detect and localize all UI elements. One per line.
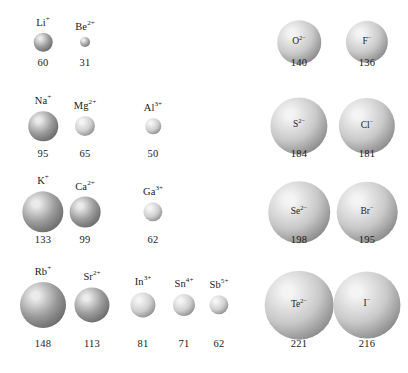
ion-label-br: Br− xyxy=(360,207,373,217)
ion-radius-value-sb: 62 xyxy=(214,339,225,350)
ion-label-sb: Sb5+ xyxy=(210,280,229,291)
ion-radius-value-f: 136 xyxy=(359,58,375,69)
ion-sphere-li xyxy=(34,33,53,52)
ion-symbol: O xyxy=(292,36,299,46)
ion-charge: 2+ xyxy=(87,179,95,187)
ion-sphere-cl: Cl− xyxy=(339,98,395,154)
ion-charge: 2− xyxy=(298,118,305,125)
ion-sphere-ca xyxy=(70,197,101,228)
ion-radius-value-sr: 113 xyxy=(84,339,100,350)
ion-radius-value-s: 184 xyxy=(291,149,307,160)
ion-charge: − xyxy=(370,118,374,125)
ion-charge: 2− xyxy=(299,34,306,41)
ion-label-ca: Ca2+ xyxy=(75,181,94,192)
ion-symbol: Rb xyxy=(35,266,47,277)
ion-label-al: Al3+ xyxy=(144,103,162,114)
ion-radius-value-na: 95 xyxy=(38,149,49,160)
ion-sphere-sn xyxy=(173,294,195,316)
ion-label-o: O2− xyxy=(292,37,306,47)
ion-symbol: Br xyxy=(360,206,370,216)
ion-radius-value-ca: 99 xyxy=(80,235,91,246)
ion-charge: 4+ xyxy=(186,276,194,284)
ion-charge: 3+ xyxy=(155,100,163,108)
ion-charge: − xyxy=(368,34,372,41)
ion-label-sn: Sn4+ xyxy=(175,278,194,289)
ion-label-li: Li+ xyxy=(36,17,50,28)
ion-charge: 5+ xyxy=(221,277,229,285)
ion-radius-value-mg: 65 xyxy=(80,149,91,160)
ion-symbol: Te xyxy=(291,299,300,309)
ion-charge: 2+ xyxy=(93,269,101,277)
ion-label-te: Te2− xyxy=(291,300,307,310)
ion-charge: 2− xyxy=(300,204,307,211)
ion-sphere-k xyxy=(22,191,63,232)
ion-radius-value-sn: 71 xyxy=(179,339,190,350)
ion-radius-value-i: 216 xyxy=(359,339,375,350)
ion-label-na: Na+ xyxy=(35,96,51,107)
ion-sphere-rb xyxy=(20,282,66,328)
ion-sphere-te: Te2− xyxy=(265,271,334,340)
ion-sphere-in xyxy=(130,292,155,317)
ion-charge: + xyxy=(46,15,50,23)
ion-radius-value-cl: 181 xyxy=(359,149,375,160)
ion-label-in: In3+ xyxy=(135,277,152,288)
ion-symbol: Se xyxy=(291,206,301,216)
ion-sphere-i: I− xyxy=(333,271,400,338)
ion-charge: 2− xyxy=(300,297,307,304)
ion-sphere-mg xyxy=(75,116,95,136)
ion-sphere-ga xyxy=(143,202,162,221)
ion-symbol: Mg xyxy=(74,99,89,110)
ion-charge: 3+ xyxy=(144,274,152,282)
ion-radius-value-br: 195 xyxy=(359,235,375,246)
ion-radius-value-al: 50 xyxy=(148,149,159,160)
ion-label-rb: Rb+ xyxy=(35,267,52,278)
ion-charge: 2+ xyxy=(89,98,97,106)
ion-label-f: F− xyxy=(363,37,372,47)
ion-radius-value-be: 31 xyxy=(80,58,91,69)
ion-label-i: I− xyxy=(364,300,371,310)
ion-symbol: Sr xyxy=(83,271,93,282)
ion-sphere-sr xyxy=(74,287,109,322)
ion-sphere-al xyxy=(145,118,161,134)
ion-sphere-na xyxy=(28,111,58,141)
ion-radius-value-ga: 62 xyxy=(148,235,159,246)
ion-label-cl: Cl− xyxy=(361,121,374,131)
ion-charge: + xyxy=(45,173,49,181)
ion-symbol: Sb xyxy=(210,279,221,290)
ion-radius-value-k: 133 xyxy=(35,235,51,246)
ion-sphere-sb xyxy=(209,295,228,314)
ion-symbol: Na xyxy=(35,95,47,106)
ion-charge: 3+ xyxy=(155,184,163,192)
ion-radius-value-rb: 148 xyxy=(35,339,51,350)
ion-symbol: Li xyxy=(36,16,46,27)
ion-label-k: K+ xyxy=(37,176,49,187)
ion-symbol: Al xyxy=(144,102,155,113)
ion-label-se: Se2− xyxy=(291,207,307,217)
ion-label-be: Be2+ xyxy=(75,22,94,33)
ion-charge: − xyxy=(370,204,374,211)
ionic-radii-figure: Li+60Be2+31Na+95Mg2+65Al3+50K+133Ca2+99G… xyxy=(0,0,408,373)
ion-label-sr: Sr2+ xyxy=(83,272,100,283)
ion-charge: − xyxy=(367,297,371,304)
ion-charge: + xyxy=(47,264,51,272)
ion-radius-value-li: 60 xyxy=(38,58,49,69)
ion-sphere-be xyxy=(80,37,90,47)
ion-radius-value-se: 198 xyxy=(291,235,307,246)
ion-symbol: Ca xyxy=(75,180,87,191)
ion-radius-value-te: 221 xyxy=(291,339,307,350)
ion-symbol: Ga xyxy=(143,186,155,197)
ion-label-s: S2− xyxy=(293,121,305,131)
ion-radius-value-in: 81 xyxy=(138,339,149,350)
ion-radius-value-o: 140 xyxy=(291,58,307,69)
ion-symbol: Sn xyxy=(175,277,186,288)
ion-label-mg: Mg2+ xyxy=(74,100,96,111)
ion-charge: + xyxy=(47,93,51,101)
ion-symbol: In xyxy=(135,276,144,287)
ion-symbol: Cl xyxy=(361,120,370,130)
ion-symbol: K xyxy=(37,175,45,186)
ion-label-ga: Ga3+ xyxy=(143,187,163,198)
ion-symbol: Be xyxy=(75,21,87,32)
ion-sphere-s: S2− xyxy=(270,97,327,154)
ion-charge: 2+ xyxy=(87,19,95,27)
